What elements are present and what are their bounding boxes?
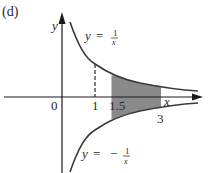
curve-lower	[70, 103, 198, 172]
svg-text:y: y	[83, 28, 91, 43]
svg-text:=: =	[96, 28, 103, 43]
tick-label-1: 1	[92, 98, 99, 113]
svg-text:y: y	[80, 146, 88, 161]
origin-label: 0	[51, 98, 58, 113]
svg-text:=: =	[93, 146, 100, 161]
lower-curve-equation: y = − 1 x	[80, 146, 130, 166]
tick-label-3: 3	[157, 111, 164, 126]
x-axis-arrow-icon	[192, 94, 203, 101]
panel-label: (d)	[2, 4, 19, 20]
svg-text:−: −	[110, 146, 117, 161]
svg-text:1: 1	[113, 28, 118, 38]
y-axis-label: y	[50, 18, 58, 33]
figure: (d) y x 0 1 1.5 3 y = 1 x y = − 1 x	[0, 0, 208, 173]
x-axis-label: x	[163, 94, 170, 109]
svg-text:x: x	[111, 38, 116, 47]
svg-text:1: 1	[125, 146, 130, 156]
svg-text:x: x	[123, 157, 128, 166]
upper-curve-equation: y = 1 x	[83, 28, 118, 47]
y-axis-arrow-icon	[59, 12, 66, 24]
tick-label-1-5: 1.5	[109, 98, 125, 113]
